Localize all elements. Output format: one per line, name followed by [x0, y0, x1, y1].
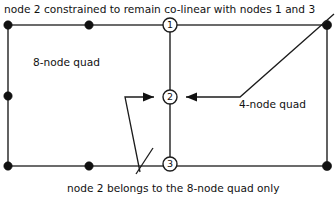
top-mid-side-node	[85, 21, 93, 29]
node-1-label: 1	[167, 19, 173, 30]
node-1: 1	[163, 18, 177, 32]
bottom-note-leader-line	[125, 97, 154, 172]
node-3: 3	[163, 157, 177, 171]
mesh-diagram-canvas: 1 2 3 node 2 constrained to remain co-li…	[0, 0, 335, 198]
bottom-left-corner-node	[4, 162, 12, 170]
four-node-quad-arrow-head	[186, 93, 197, 102]
node-3-label: 3	[167, 158, 173, 169]
bottom-mid-side-node	[85, 162, 93, 170]
bottom-note-secondary-leader-group	[136, 148, 153, 174]
bottom-note-arrow-head	[143, 93, 154, 102]
four-node-quad-leader-line	[186, 14, 334, 97]
finite-element-mesh-figure: 1 2 3 node 2 constrained to remain co-li…	[0, 0, 335, 198]
bottom-right-corner-node	[322, 161, 331, 170]
bottom-note-leader-group	[125, 93, 154, 173]
node-2: 2	[163, 90, 177, 104]
four-node-quad-leader-group	[186, 14, 334, 102]
top-note-text: node 2 constrained to remain co-linear w…	[4, 3, 315, 15]
top-left-corner-node	[4, 21, 12, 29]
right-region-label: 4-node quad	[239, 98, 306, 110]
bottom-note-text: node 2 belongs to the 8-node quad only	[67, 182, 279, 194]
node-2-label: 2	[167, 91, 173, 102]
bottom-note-secondary-leader-line	[136, 148, 153, 174]
left-region-label: 8-node quad	[33, 56, 100, 68]
top-right-corner-node	[322, 20, 331, 29]
left-mid-side-node	[4, 92, 12, 100]
